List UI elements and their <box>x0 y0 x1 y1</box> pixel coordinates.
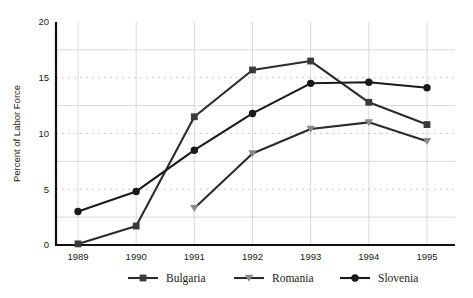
data-point-marker-square <box>75 240 82 247</box>
y-axis-tick-label: 20 <box>38 16 49 27</box>
x-axis-tick-label: 1995 <box>416 251 437 262</box>
data-point-marker-circle <box>191 147 198 154</box>
data-point-marker-square <box>191 113 198 120</box>
x-axis-tick-label: 1990 <box>126 251 147 262</box>
grid-layer <box>56 22 455 245</box>
data-point-marker-square <box>307 58 314 65</box>
data-point-marker-circle <box>74 208 81 215</box>
data-point-marker-circle <box>365 79 372 86</box>
data-point-marker-triangle <box>190 205 198 212</box>
y-axis-title: Percent of Labor Force <box>11 85 22 182</box>
y-axis-tick-label: 15 <box>38 72 49 83</box>
x-axis-tick-label: 1994 <box>358 251 379 262</box>
data-point-marker-square <box>249 67 256 74</box>
data-point-marker-circle <box>249 110 256 117</box>
y-axis-tick-label: 5 <box>44 184 49 195</box>
y-axis-tick-label: 10 <box>38 128 49 139</box>
x-axis-tick-label: 1991 <box>184 251 205 262</box>
data-point-marker-square <box>133 223 140 230</box>
ytick-labels: 05101520 <box>38 16 49 250</box>
xtick-labels: 1989199019911992199319941995 <box>67 251 437 262</box>
data-point-marker-square <box>365 99 372 106</box>
data-point-marker-square <box>424 121 431 128</box>
x-axis-tick-label: 1989 <box>67 251 88 262</box>
data-point-marker-circle <box>307 80 314 87</box>
data-point-marker-circle <box>423 84 430 91</box>
data-point-marker-circle <box>132 188 139 195</box>
data-point-marker-triangle <box>423 138 431 145</box>
line-chart: 05101520 1989199019911992199319941995 Pe… <box>0 0 473 298</box>
data-point-marker-circle <box>351 274 358 281</box>
chart-svg: 05101520 1989199019911992199319941995 Pe… <box>0 0 473 298</box>
chart-legend: BulgariaRomaniaSlovenia <box>128 272 418 285</box>
legend-label-romania: Romania <box>272 272 314 284</box>
y-axis-tick-label: 0 <box>44 239 49 250</box>
legend-label-slovenia: Slovenia <box>378 272 418 284</box>
x-axis-tick-label: 1993 <box>300 251 321 262</box>
legend-label-bulgaria: Bulgaria <box>166 272 206 285</box>
x-axis-tick-label: 1992 <box>242 251 263 262</box>
data-point-marker-square <box>140 275 147 282</box>
